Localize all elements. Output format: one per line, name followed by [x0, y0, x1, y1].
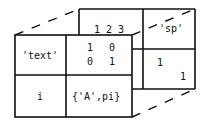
back-cell-string-sp: 'sp': [159, 23, 183, 34]
front-cell-text: 'text': [22, 50, 58, 61]
connector-top-left: [15, 9, 79, 35]
front-matrix-r2c2: 1: [109, 56, 115, 67]
front-matrix-r1c1: 1: [87, 42, 93, 53]
back-cell-diag-2: 1: [180, 71, 186, 82]
back-cell-diag-1: 1: [157, 57, 163, 68]
connector-bottom-right: [132, 89, 195, 117]
front-matrix-r1c2: 0: [109, 42, 115, 53]
front-page: 'text' 1 0 0 1 i {'A',pi}: [15, 35, 132, 117]
front-cell-struct: {'A',pi}: [72, 91, 120, 102]
cell-array-diagram: 1 2 3 'sp' 1 1 'text' 1 0 0 1 i {'A',pi}: [0, 0, 207, 127]
front-cell-i: i: [37, 91, 43, 102]
back-cell-vector: 1 2 3: [94, 24, 124, 35]
front-matrix-r2c1: 0: [87, 56, 93, 67]
